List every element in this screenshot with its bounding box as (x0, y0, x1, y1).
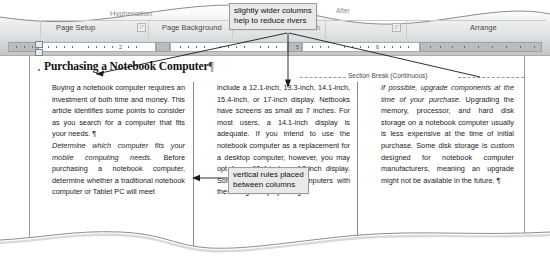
first-line-indent-marker[interactable] (35, 41, 43, 48)
pilcrow-icon: ¶ (209, 60, 214, 72)
ribbon-separator (325, 20, 326, 39)
callout-vertical-rules: vertical rules placed between columns (228, 167, 309, 194)
text-column-1[interactable]: Buying a notebook computer requires an i… (52, 82, 185, 198)
document-page[interactable]: Purchasing a Notebook Computer¶ Section … (29, 56, 525, 262)
section-break-label: Section Break (Continuous) (346, 72, 430, 79)
column-rule-2 (357, 82, 358, 262)
section-break: Section Break (Continuous) (300, 73, 524, 81)
callout-line-2: between columns (233, 180, 304, 190)
dialog-launcher-icon[interactable]: ◸ (137, 23, 146, 32)
ruler-number-2: 2 (119, 43, 122, 51)
ribbon-label-hyphenation[interactable]: Hyphenation (110, 9, 152, 18)
ruler-gutter-2[interactable] (288, 42, 302, 52)
ribbon-separator (40, 20, 41, 39)
paragraph-mark-bullet (38, 69, 40, 71)
text-column-3[interactable]: If possible, upgrade components at the t… (381, 82, 514, 186)
paragraph-body: Upgrading the memory, processor, and har… (381, 95, 514, 185)
ruler-number-6: 6 (376, 43, 379, 51)
ruler-margin-left (8, 42, 38, 52)
ruler-gutter-1[interactable] (156, 42, 170, 52)
ribbon-label-after[interactable]: After (336, 7, 350, 14)
left-indent-marker[interactable] (35, 49, 43, 56)
page-title: Purchasing a Notebook Computer¶ (44, 60, 214, 72)
ribbon-group-arrange[interactable]: Arrange (470, 23, 497, 32)
ribbon-group-page-background[interactable]: Page Background (162, 23, 222, 32)
dialog-launcher-icon[interactable]: ◸ (392, 23, 401, 32)
callout-wider-columns: slightly wider columns help to reduce ri… (229, 3, 317, 30)
ribbon-separator (406, 20, 407, 39)
callout-line-1: slightly wider columns (234, 6, 312, 16)
ruler-number-5: 5 (296, 43, 299, 51)
ruler-margin-right (420, 42, 542, 52)
ribbon-separator (148, 20, 149, 39)
callout-line-2: help to reduce rivers (234, 16, 312, 26)
ribbon-group-page-setup[interactable]: Page Setup (56, 23, 95, 32)
screenshot-canvas: Hyphenation After h Page Setup Page Back… (0, 0, 550, 262)
horizontal-ruler[interactable]: 2 5 6 (0, 40, 550, 56)
column-rule-1 (193, 82, 194, 262)
paragraph-body: Buying a notebook computer requires an i… (52, 82, 185, 140)
callout-line-1: vertical rules placed (233, 170, 304, 180)
page-title-text: Purchasing a Notebook Computer (44, 60, 209, 72)
